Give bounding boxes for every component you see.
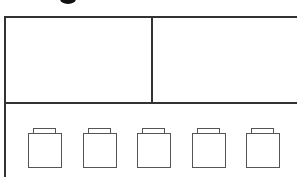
unit-box (192, 133, 226, 168)
unit-box (246, 133, 280, 168)
unit-1 (28, 128, 62, 169)
unit-2 (83, 128, 117, 169)
vertical-divider (151, 16, 153, 104)
unit-box (137, 133, 171, 168)
unit-5 (246, 128, 280, 169)
unit-3 (137, 128, 171, 169)
unit-4 (192, 128, 226, 169)
horizontal-divider (4, 102, 297, 104)
unit-box (83, 133, 117, 168)
unit-box (28, 133, 62, 168)
cropped-heading-glyph (60, 0, 76, 4)
